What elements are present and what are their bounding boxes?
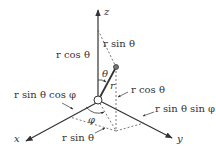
- label-r-sin-theta-cos-phi: r sin θ cos φ: [14, 89, 76, 100]
- label-r-cos-theta-axis: r cos θ: [56, 49, 90, 60]
- theta-arc: [98, 80, 106, 82]
- leader-sinsin: [143, 112, 154, 116]
- x-label: x: [14, 133, 20, 144]
- label-theta: θ: [102, 68, 108, 79]
- label-r: r: [110, 80, 116, 91]
- y-label: y: [176, 133, 183, 144]
- dashed-projection-to-y: [116, 123, 144, 131]
- origin-circle: [94, 96, 102, 104]
- phi-arc: [86, 107, 104, 113]
- leader-rsin-bottom: [95, 128, 105, 133]
- spherical-coordinates-diagram: z x y r sin θ r cos θ θ r r cos θ r sin …: [0, 0, 216, 154]
- point-p: [114, 65, 119, 70]
- leader-rcos-vertical: [118, 92, 128, 97]
- label-r-sin-theta-top: r sin θ: [103, 38, 135, 49]
- label-r-sin-theta-sin-phi: r sin θ sin φ: [155, 103, 215, 114]
- label-phi: φ: [88, 114, 95, 125]
- label-r-sin-theta-bottom: r sin θ: [62, 132, 94, 143]
- leader-sincos: [62, 103, 73, 109]
- z-label: z: [103, 6, 110, 17]
- label-r-cos-theta-vertical: r cos θ: [131, 84, 165, 95]
